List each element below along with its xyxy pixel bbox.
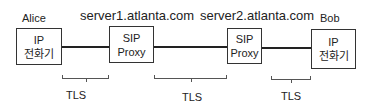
alice-phone-line2: 전화기 [24,47,54,61]
tls-label-3: TLS [281,90,301,102]
alice-ip-phone: IP 전화기 [16,28,62,65]
tls-label-1: TLS [66,89,86,101]
alice-caption: Alice [22,12,46,24]
proxy2-line2: Proxy [230,46,258,60]
sip-proxy-2: SIP Proxy [227,28,262,64]
sip-proxy-1: SIP Proxy [109,26,154,63]
bob-phone-line1: IP [328,35,338,49]
link-proxy1-proxy2 [154,46,227,48]
tls-bracket-3 [271,76,311,80]
server2-caption: server2.atlanta.com [200,8,314,23]
link-alice-proxy1 [62,46,109,48]
bob-ip-phone: IP 전화기 [311,29,356,69]
proxy1-line2: Proxy [117,45,145,59]
bob-phone-line2: 전화기 [319,49,349,63]
tls-bracket-1 [62,75,109,79]
link-proxy2-bob [261,47,311,49]
alice-phone-line1: IP [34,33,44,47]
proxy1-line1: SIP [123,31,141,45]
server1-caption: server1.atlanta.com [80,8,194,23]
bob-caption: Bob [320,12,340,24]
tls-label-2: TLS [182,91,202,103]
proxy2-line1: SIP [236,32,254,46]
tls-bracket-2 [154,75,227,79]
